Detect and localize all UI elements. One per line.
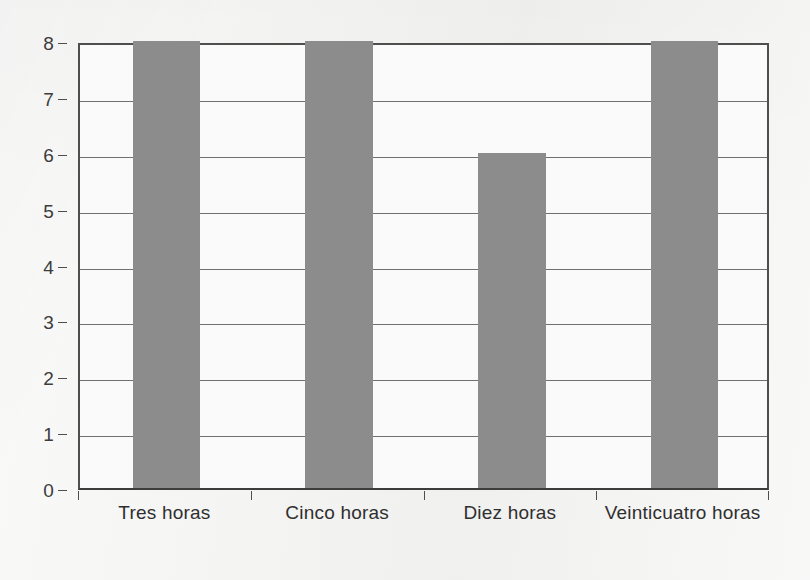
- y-axis-tick-mark: [58, 322, 67, 323]
- bar-chart-figure: 012345678 Tres horasCinco horasDiez hora…: [0, 0, 810, 580]
- plot-area: [78, 43, 769, 490]
- x-axis-category-label: Cinco horas: [251, 500, 424, 526]
- x-axis-category-label: Tres horas: [78, 500, 251, 526]
- y-axis-tick-mark: [58, 211, 67, 212]
- y-axis-tick-label: 1: [43, 425, 54, 444]
- y-axis-tick-mark: [58, 434, 67, 435]
- x-axis-category-labels: Tres horasCinco horasDiez horasVeinticua…: [78, 500, 769, 570]
- bar: [133, 41, 200, 488]
- y-axis-tick-label: 5: [43, 201, 54, 220]
- bars-layer: [80, 45, 767, 488]
- y-axis-tick-mark: [58, 267, 67, 268]
- x-axis-category-label: Diez horas: [424, 500, 597, 526]
- x-axis-tick-mark: [424, 491, 425, 500]
- bar: [478, 153, 545, 488]
- bar: [651, 41, 718, 488]
- x-axis-tick-mark: [78, 491, 79, 500]
- y-axis-tick-label: 7: [43, 89, 54, 108]
- y-axis-tick-mark: [58, 378, 67, 379]
- x-axis-tick-marks: [78, 491, 769, 500]
- y-axis-tick-mark: [58, 99, 67, 100]
- y-axis: 012345678: [0, 43, 70, 490]
- x-axis-tick-mark: [251, 491, 252, 500]
- y-axis-tick-label: 8: [43, 34, 54, 53]
- y-axis-tick-mark: [58, 43, 67, 44]
- x-axis-category-label: Veinticuatro horas: [596, 500, 769, 526]
- y-axis-tick-mark: [58, 490, 67, 491]
- y-axis-tick-mark: [58, 155, 67, 156]
- y-axis-tick-label: 0: [43, 481, 54, 500]
- y-axis-tick-label: 2: [43, 369, 54, 388]
- x-axis-tick-mark: [596, 491, 597, 500]
- y-axis-tick-label: 6: [43, 145, 54, 164]
- x-axis-tick-mark: [768, 491, 769, 500]
- y-axis-tick-label: 4: [43, 257, 54, 276]
- bar: [305, 41, 372, 488]
- y-axis-tick-label: 3: [43, 313, 54, 332]
